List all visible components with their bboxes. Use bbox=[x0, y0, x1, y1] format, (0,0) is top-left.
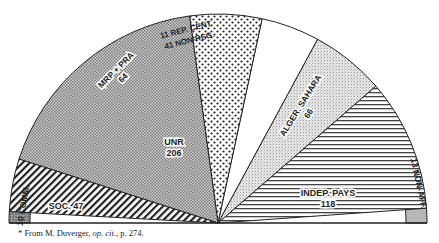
footnote-italic: op. cit. bbox=[93, 228, 116, 238]
segment-13-non-aff- bbox=[406, 208, 427, 223]
footnote-suffix: , p. 274. bbox=[116, 228, 144, 238]
source-footnote: * From M. Duverger, op. cit., p. 274. bbox=[18, 228, 144, 238]
parliament-semicircle-chart: 10 COMM. SOC. 47 UNR 206 MRP + PRA 64 11… bbox=[0, 0, 439, 243]
label-indep-value: 118 bbox=[321, 199, 336, 209]
label-soc: SOC. 47 bbox=[49, 201, 84, 211]
label-unr-value: 206 bbox=[166, 148, 181, 158]
label-unr-name: UNR bbox=[164, 137, 184, 147]
label-indep-name: INDEP. PAYS bbox=[301, 188, 355, 198]
footnote-prefix: * From M. Duverger, bbox=[18, 228, 93, 238]
